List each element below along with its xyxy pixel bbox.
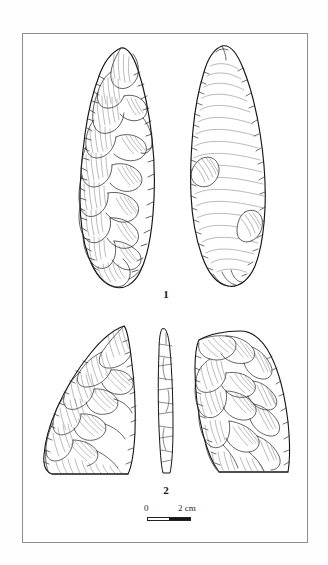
artifact-2-left-fragment bbox=[44, 326, 136, 474]
artifact-2-right-fragment bbox=[195, 331, 290, 472]
artifact-1-obverse bbox=[79, 48, 154, 288]
artifact-1-reverse bbox=[191, 46, 266, 287]
scale-start-label: 0 bbox=[144, 503, 149, 513]
lithic-drawings bbox=[0, 0, 328, 565]
scale-bar-graphic bbox=[147, 517, 191, 521]
scale-end-label: 2 cm bbox=[178, 503, 196, 513]
artifact-2-edge-profile bbox=[158, 329, 173, 473]
artifact-label-1: 1 bbox=[150, 288, 182, 300]
scale-bar: 0 2 cm bbox=[132, 503, 212, 527]
artifact-label-2: 2 bbox=[150, 484, 182, 496]
scale-bar-labels: 0 2 cm bbox=[132, 503, 212, 515]
figure-plate: 1 2 0 2 cm bbox=[0, 0, 328, 565]
